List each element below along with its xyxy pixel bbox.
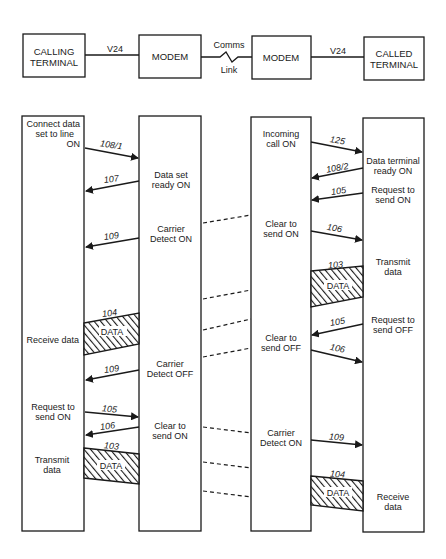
note-transmit-r-2: data bbox=[384, 267, 402, 277]
note-rts-on-2: send ON bbox=[35, 412, 71, 422]
note-connect-1: Connect data bbox=[26, 119, 80, 129]
note-cd-off-2: Detect OFF bbox=[147, 369, 194, 379]
v24-left-label: V24 bbox=[107, 44, 123, 54]
comms-link-zigzag bbox=[201, 52, 252, 62]
called-terminal-label: CALLED bbox=[376, 48, 413, 59]
note-receive-data: Receive data bbox=[26, 335, 79, 345]
note-connect-3: ON bbox=[67, 139, 81, 149]
data-label-104-right: DATA bbox=[327, 488, 350, 498]
note-rts-on-1: Request to bbox=[31, 402, 75, 412]
note-rts-off-2: send OFF bbox=[373, 325, 414, 335]
signal-109-on: 109 bbox=[103, 230, 119, 242]
note-connect-2: set to line bbox=[35, 129, 74, 139]
note-cd-on-1: Carrier bbox=[157, 224, 185, 234]
signal-103-right: 103 bbox=[328, 259, 344, 270]
note-rts-on-r-1: Request to bbox=[371, 185, 415, 195]
signal-106-right-on: 106 bbox=[326, 222, 343, 234]
note-incoming-1: Incoming bbox=[263, 129, 300, 139]
note-dsr-on-2: ready ON bbox=[152, 180, 191, 190]
signal-104-left: 104 bbox=[101, 307, 117, 319]
link-label: Link bbox=[221, 65, 238, 75]
carrier-lines bbox=[203, 215, 251, 497]
calling-terminal-label-2: TERMINAL bbox=[30, 57, 78, 68]
note-dtr-on-2: ready ON bbox=[374, 166, 413, 176]
signal-109-off: 109 bbox=[103, 363, 119, 375]
note-cts-on-r-1: Clear to bbox=[265, 219, 297, 229]
note-rts-on-r-2: send ON bbox=[375, 195, 411, 205]
note-cts-on-r-2: send ON bbox=[263, 229, 299, 239]
calling-terminal-label: CALLING bbox=[34, 46, 75, 57]
signal-107: 107 bbox=[103, 173, 120, 185]
sequence-diagram: CALLING TERMINAL MODEM MODEM CALLED TERM… bbox=[0, 0, 446, 559]
signal-125: 125 bbox=[329, 134, 347, 147]
note-cd-off-1: Carrier bbox=[156, 359, 184, 369]
modem-right-label: MODEM bbox=[263, 52, 300, 63]
note-cd-on-r-1: Carrier bbox=[267, 428, 295, 438]
note-incoming-2: call ON bbox=[266, 139, 296, 149]
note-cd-on-2: Detect ON bbox=[150, 234, 192, 244]
called-terminal-label-2: TERMINAL bbox=[370, 59, 418, 70]
modem-left-label: MODEM bbox=[152, 51, 189, 62]
signal-108-1: 108/1 bbox=[99, 138, 123, 151]
note-receive-r-1: Receive bbox=[377, 492, 410, 502]
note-dsr-on-1: Data set bbox=[154, 170, 188, 180]
signal-109-right: 109 bbox=[329, 431, 345, 442]
note-cts-on-2: send ON bbox=[152, 431, 188, 441]
data-label-104-left: DATA bbox=[101, 327, 124, 337]
signal-105-right-off: 105 bbox=[329, 315, 347, 328]
note-cts-off-2: send OFF bbox=[261, 343, 302, 353]
note-cts-on-1: Clear to bbox=[154, 421, 186, 431]
v24-right-label: V24 bbox=[330, 46, 346, 56]
note-cd-on-r-2: Detect ON bbox=[260, 438, 302, 448]
signal-106-left: 106 bbox=[99, 420, 115, 432]
data-label-103-right: DATA bbox=[327, 281, 350, 291]
note-transmit-r-1: Transmit bbox=[376, 257, 411, 267]
signal-105-left: 105 bbox=[102, 403, 119, 414]
signal-108-2: 108/2 bbox=[325, 161, 349, 175]
data-label-103-left: DATA bbox=[100, 461, 123, 471]
note-dtr-on-1: Data terminal bbox=[366, 156, 420, 166]
signal-106-right-off: 106 bbox=[329, 342, 346, 355]
note-transmit-1: Transmit bbox=[35, 455, 70, 465]
note-rts-off-1: Request to bbox=[371, 315, 415, 325]
modem-right-column bbox=[251, 117, 311, 531]
comms-label: Comms bbox=[214, 40, 245, 50]
note-cts-off-1: Clear to bbox=[265, 333, 297, 343]
signal-104-right: 104 bbox=[330, 468, 346, 479]
note-receive-r-2: data bbox=[384, 502, 402, 512]
note-transmit-2: data bbox=[43, 465, 61, 475]
signal-103-left: 103 bbox=[104, 440, 120, 451]
